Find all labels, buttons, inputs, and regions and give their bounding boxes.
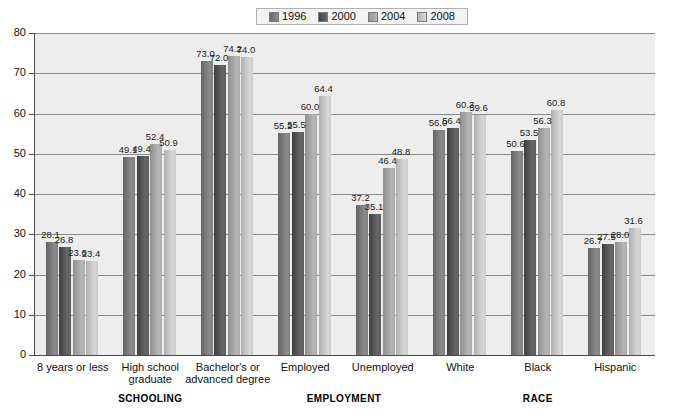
bar-value-label: 72.0 [206, 53, 232, 63]
legend-item-1996[interactable]: 1996 [269, 11, 306, 22]
y-axis-tick [29, 234, 34, 235]
bar-2008-high-school-graduate [164, 150, 176, 355]
x-axis-category-line: Hispanic [563, 361, 669, 373]
bar-1996-bachelor-s-or-advanced-degree [201, 61, 213, 355]
legend-swatch-icon [318, 12, 328, 22]
bar-value-label: 60.0 [297, 102, 323, 112]
section-label-employment: EMPLOYMENT [274, 393, 414, 405]
legend-item-2004[interactable]: 2004 [368, 11, 405, 22]
bar-value-label: 48.8 [388, 147, 414, 157]
bar-2004-bachelor-s-or-advanced-degree [228, 56, 240, 355]
bar-value-label: 31.6 [621, 216, 647, 226]
bar-chart: 1996200020042008 0102030405060708028.126… [0, 0, 685, 416]
y-axis-tick-label: 40 [0, 187, 26, 199]
y-axis-tick-label: 10 [0, 308, 26, 320]
y-axis-tick [29, 154, 34, 155]
bar-value-label: 53.5 [516, 128, 542, 138]
bar-value-label: 28.0 [607, 230, 633, 240]
bar-value-label: 55.5 [284, 120, 310, 130]
bar-2004-black [538, 128, 550, 355]
bar-1996-black [511, 151, 523, 355]
y-axis-tick-label: 0 [0, 348, 26, 360]
bar-2000-high-school-graduate [137, 156, 149, 355]
bar-1996-high-school-graduate [123, 157, 135, 355]
gridline [35, 73, 655, 74]
bar-value-label: 35.1 [361, 202, 387, 212]
bar-1996-white [433, 130, 445, 355]
bar-value-label: 64.4 [311, 84, 337, 94]
y-axis-tick [29, 73, 34, 74]
bar-value-label: 60.8 [543, 98, 569, 108]
bar-2000-hispanic [602, 244, 614, 355]
legend-label: 2000 [331, 11, 355, 22]
legend-label: 1996 [282, 11, 306, 22]
bar-2000-bachelor-s-or-advanced-degree [214, 65, 226, 355]
y-axis-tick [29, 315, 34, 316]
bar-value-label: 23.4 [78, 249, 104, 259]
bar-2000-unemployed [369, 214, 381, 355]
bar-1996-hispanic [588, 248, 600, 355]
bar-2004-high-school-graduate [150, 144, 162, 355]
bar-2004-employed [305, 114, 317, 356]
y-axis-tick-label: 70 [0, 66, 26, 78]
y-axis-tick-label: 80 [0, 26, 26, 38]
bar-value-label: 56.4 [439, 116, 465, 126]
y-axis-tick [29, 114, 34, 115]
y-axis-tick-label: 50 [0, 147, 26, 159]
y-axis-tick [29, 275, 34, 276]
y-axis-tick [29, 33, 34, 34]
section-label-schooling: SCHOOLING [80, 393, 220, 405]
section-label-race: RACE [468, 393, 608, 405]
bar-value-label: 74.0 [233, 45, 259, 55]
legend-swatch-icon [368, 12, 378, 22]
bar-2008-hispanic [629, 228, 641, 355]
legend-label: 2004 [381, 11, 405, 22]
legend-label: 2008 [430, 11, 454, 22]
y-axis-tick-label: 30 [0, 227, 26, 239]
x-axis-category-line: advanced degree [175, 373, 281, 385]
legend-item-2008[interactable]: 2008 [417, 11, 454, 22]
bar-value-label: 26.8 [51, 235, 77, 245]
bar-2008-employed [319, 96, 331, 355]
plot-area [34, 33, 655, 356]
bar-2000-black [524, 140, 536, 355]
bar-2008-8-years-or-less [86, 261, 98, 355]
y-axis-tick [29, 355, 34, 356]
chart-legend: 1996200020042008 [256, 8, 468, 25]
bar-value-label: 56.3 [530, 116, 556, 126]
bar-2004-hispanic [615, 242, 627, 355]
bar-value-label: 49.4 [129, 144, 155, 154]
bar-value-label: 46.4 [375, 156, 401, 166]
bar-2008-white [474, 115, 486, 355]
bar-2004-unemployed [383, 168, 395, 355]
bar-2000-employed [292, 132, 304, 355]
bar-2000-8-years-or-less [59, 247, 71, 355]
bar-2008-unemployed [396, 159, 408, 355]
bar-value-label: 50.9 [156, 138, 182, 148]
bar-value-label: 59.6 [466, 103, 492, 113]
y-axis-tick [29, 194, 34, 195]
bar-2008-black [551, 110, 563, 355]
bar-1996-8-years-or-less [46, 242, 58, 355]
bar-2000-white [447, 128, 459, 355]
x-axis-category-label: Hispanic [563, 361, 669, 373]
legend-item-2000[interactable]: 2000 [318, 11, 355, 22]
bar-2004-8-years-or-less [73, 260, 85, 355]
legend-swatch-icon [417, 12, 427, 22]
bar-value-label: 50.6 [503, 139, 529, 149]
bar-1996-unemployed [356, 205, 368, 355]
bar-2004-white [460, 112, 472, 355]
gridline [35, 33, 655, 34]
bar-1996-employed [278, 133, 290, 355]
legend-swatch-icon [269, 12, 279, 22]
y-axis-tick-label: 60 [0, 107, 26, 119]
bar-2008-bachelor-s-or-advanced-degree [241, 57, 253, 355]
y-axis-tick-label: 20 [0, 268, 26, 280]
